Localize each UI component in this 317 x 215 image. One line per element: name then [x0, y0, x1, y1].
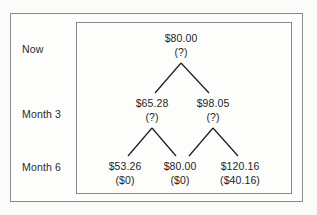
- node-value: $80.00: [165, 32, 198, 46]
- tree-node-root: $80.00 (?): [165, 32, 198, 59]
- node-payoff: (?): [197, 111, 230, 125]
- row-label-month-3: Month 3: [22, 108, 61, 120]
- tree-node-up-up: $120.16 ($40.16): [220, 160, 260, 187]
- node-payoff: ($0): [109, 174, 142, 188]
- tree-node-down-down: $53.26 ($0): [109, 160, 142, 187]
- node-value: $80.00: [164, 160, 197, 174]
- node-value: $53.26: [109, 160, 142, 174]
- node-payoff: ($40.16): [220, 174, 260, 188]
- tree-node-down: $65.28 (?): [136, 97, 169, 124]
- node-value: $120.16: [220, 160, 260, 174]
- row-label-now: Now: [22, 43, 43, 55]
- node-value: $65.28: [136, 97, 169, 111]
- node-payoff: ($0): [164, 174, 197, 188]
- tree-node-down-up: $80.00 ($0): [164, 160, 197, 187]
- figure-canvas: Now Month 3 Month 6 $80.00 (?) $65.28 (?…: [0, 0, 317, 215]
- node-payoff: (?): [136, 111, 169, 125]
- node-payoff: (?): [165, 46, 198, 60]
- tree-node-up: $98.05 (?): [197, 97, 230, 124]
- node-value: $98.05: [197, 97, 230, 111]
- row-label-month-6: Month 6: [22, 161, 61, 173]
